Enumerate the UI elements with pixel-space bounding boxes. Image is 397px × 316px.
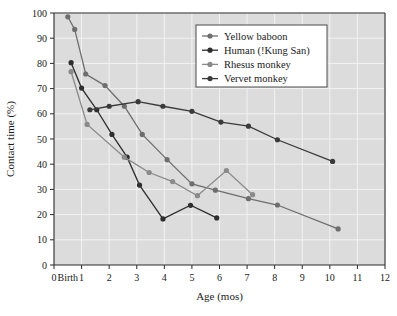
y-tick-label: 40 bbox=[37, 159, 47, 170]
contact-time-line-chart: 01020304050607080901000Birth123456789101… bbox=[0, 0, 397, 316]
x-axis-ticks: 0Birth123456789101112 bbox=[52, 265, 391, 283]
x-tick-label: 5 bbox=[189, 272, 194, 283]
y-tick-label: 0 bbox=[42, 260, 47, 271]
data-point-marker bbox=[102, 83, 107, 88]
data-point-marker bbox=[224, 168, 229, 173]
data-point-marker bbox=[330, 159, 335, 164]
data-point-marker bbox=[87, 107, 92, 112]
data-point-marker bbox=[137, 183, 142, 188]
y-axis-ticks: 0102030405060708090100 bbox=[32, 8, 54, 271]
x-tick-label: 2 bbox=[107, 272, 112, 283]
data-point-marker bbox=[147, 170, 152, 175]
data-point-marker bbox=[170, 179, 175, 184]
legend-entry-label: Human (!Kung San) bbox=[224, 45, 310, 57]
x-tick-label: 3 bbox=[134, 272, 139, 283]
data-point-marker bbox=[164, 157, 169, 162]
y-tick-label: 60 bbox=[37, 108, 47, 119]
data-point-marker bbox=[275, 202, 280, 207]
data-point-marker bbox=[189, 181, 194, 186]
y-tick-label: 70 bbox=[37, 83, 47, 94]
legend-marker-swatch bbox=[207, 62, 212, 67]
data-point-marker bbox=[69, 60, 74, 65]
data-point-marker bbox=[72, 27, 77, 32]
data-point-marker bbox=[188, 203, 193, 208]
legend: Yellow baboonHuman (!Kung San)Rhesus mon… bbox=[196, 25, 327, 87]
data-point-marker bbox=[69, 69, 74, 74]
data-point-marker bbox=[136, 99, 141, 104]
x-tick-label: 6 bbox=[217, 272, 222, 283]
y-tick-label: 20 bbox=[37, 209, 47, 220]
x-tick-label: 7 bbox=[245, 272, 250, 283]
data-point-marker bbox=[85, 122, 90, 127]
data-point-marker bbox=[65, 14, 70, 19]
data-point-marker bbox=[195, 193, 200, 198]
y-tick-label: 30 bbox=[37, 184, 47, 195]
data-point-marker bbox=[246, 124, 251, 129]
data-point-marker bbox=[160, 104, 165, 109]
legend-marker-swatch bbox=[207, 48, 212, 53]
legend-entry-label: Rhesus monkey bbox=[224, 59, 292, 70]
legend-entry-label: Yellow baboon bbox=[224, 31, 288, 42]
x-tick-label: 0 bbox=[52, 272, 57, 283]
data-point-marker bbox=[213, 188, 218, 193]
y-tick-label: 100 bbox=[32, 8, 47, 19]
y-tick-label: 90 bbox=[37, 33, 47, 44]
data-point-marker bbox=[83, 71, 88, 76]
x-tick-label: 11 bbox=[353, 272, 363, 283]
data-point-marker bbox=[250, 192, 255, 197]
y-axis-title: Contact time (%) bbox=[4, 101, 17, 177]
x-tick-label: Birth bbox=[58, 272, 79, 283]
data-point-marker bbox=[275, 137, 280, 142]
data-point-marker bbox=[214, 215, 219, 220]
data-point-marker bbox=[140, 132, 145, 137]
data-point-marker bbox=[218, 120, 223, 125]
legend-marker-swatch bbox=[207, 33, 212, 38]
x-tick-label: 12 bbox=[380, 272, 390, 283]
x-tick-label: 9 bbox=[300, 272, 305, 283]
data-point-marker bbox=[160, 216, 165, 221]
y-tick-label: 80 bbox=[37, 58, 47, 69]
x-axis-title: Age (mos) bbox=[196, 290, 243, 303]
data-point-marker bbox=[79, 86, 84, 91]
data-point-marker bbox=[122, 155, 127, 160]
x-tick-label: 1 bbox=[79, 272, 84, 283]
data-point-marker bbox=[336, 226, 341, 231]
y-tick-label: 50 bbox=[37, 134, 47, 145]
x-tick-label: 10 bbox=[325, 272, 335, 283]
x-tick-label: 8 bbox=[272, 272, 277, 283]
data-point-marker bbox=[246, 196, 251, 201]
x-tick-label: 4 bbox=[162, 272, 167, 283]
data-point-marker bbox=[109, 132, 114, 137]
chart-figure: 01020304050607080901000Birth123456789101… bbox=[0, 0, 397, 316]
y-tick-label: 10 bbox=[37, 234, 47, 245]
data-point-marker bbox=[189, 109, 194, 114]
legend-entry-label: Vervet monkey bbox=[224, 73, 289, 84]
data-point-marker bbox=[107, 104, 112, 109]
legend-marker-swatch bbox=[207, 76, 212, 81]
